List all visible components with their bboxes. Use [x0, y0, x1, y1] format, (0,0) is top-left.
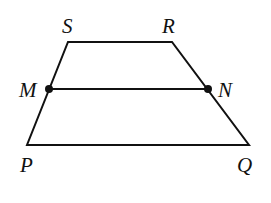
trapezoid-PQRS: [27, 42, 249, 145]
label-R: R: [161, 14, 175, 38]
trapezoid-diagram: S R M N P Q: [0, 0, 271, 203]
label-Q: Q: [237, 153, 252, 177]
point-M-dot: [45, 85, 53, 93]
label-M: M: [18, 78, 38, 102]
label-N: N: [217, 78, 233, 102]
label-S: S: [62, 14, 73, 38]
diagram-svg: S R M N P Q: [0, 0, 271, 203]
label-P: P: [19, 153, 33, 177]
point-N-dot: [204, 85, 212, 93]
